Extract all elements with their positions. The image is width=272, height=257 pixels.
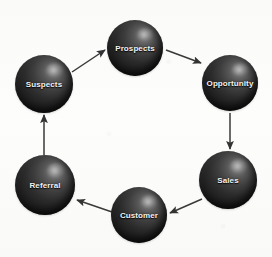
arrow-customer-to-referral xyxy=(77,200,112,212)
node-label-opportunity: Opportunity xyxy=(207,79,254,88)
node-label-sales: Sales xyxy=(217,176,238,185)
node-label-suspects: Suspects xyxy=(26,80,62,89)
node-referral[interactable]: Referral xyxy=(15,155,75,215)
arrow-sales-to-customer xyxy=(170,199,202,213)
node-label-prospects: Prospects xyxy=(115,44,155,53)
node-suspects[interactable]: Suspects xyxy=(15,55,73,113)
node-customer[interactable]: Customer xyxy=(111,187,167,243)
node-label-customer: Customer xyxy=(120,211,158,220)
node-opportunity[interactable]: Opportunity xyxy=(202,55,258,111)
arrow-suspects-to-prospects xyxy=(72,50,105,72)
cycle-diagram: SuspectsProspectsOpportunitySalesCustome… xyxy=(0,0,272,257)
node-label-referral: Referral xyxy=(29,181,60,190)
node-prospects[interactable]: Prospects xyxy=(107,20,163,76)
arrow-prospects-to-opportunity xyxy=(166,50,201,63)
node-sales[interactable]: Sales xyxy=(199,151,257,209)
